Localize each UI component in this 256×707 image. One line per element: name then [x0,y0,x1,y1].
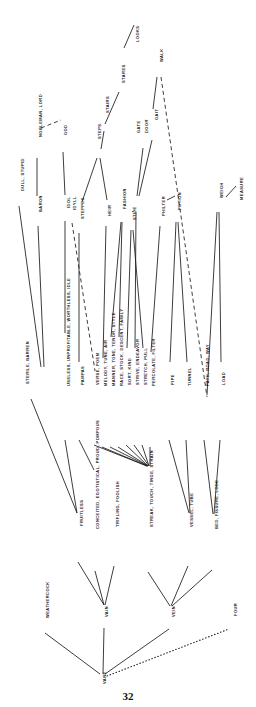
edge-vein-to-vane [105,629,169,674]
node-label-gait: GAIT [155,109,159,120]
node-label-melody: MELODY, TUNE, AIR [104,340,108,386]
node-label-stares: STARES [122,64,126,83]
edge-walk-to-path [161,77,207,397]
edge-fruitless-to-vain [78,562,104,605]
edge-potion-to-pipe [170,222,176,362]
node-label-god: GOD [64,125,68,135]
node-label-looks: LOOKS [136,26,140,42]
node-label-potion: POTION [178,192,182,210]
edge-philter-to-potion [167,196,175,200]
edge-conceited-to-vain [95,571,104,605]
edge-pampas-to-conceited [79,440,94,470]
node-label-sort: SORT, KIND [128,358,132,385]
node-label-steppes: STEPPES [81,197,85,219]
node-label-streak: STREAK, TOUCH, TINGE, STRAIN [150,450,154,527]
node-label-philter: PHILTER [162,196,166,216]
node-label-sterile: STERILE, BARREN [26,341,30,384]
node-label-vein: VEIN [172,606,176,617]
node-label-path: PATH, ROAD, WAY [206,344,210,386]
edge-dull-to-sterile [19,206,41,367]
node-label-measure: MEASURE [240,177,244,200]
edge-baron-to-sterile [38,226,44,367]
node-label-idol: IDOL [67,197,71,208]
edge-weathercock-to-vane [45,633,100,674]
node-label-strive: STRIVE, ENDEAVOR [136,339,140,385]
node-label-stairs: STAIRS [106,96,110,113]
edge-weigh-to-load [219,212,221,362]
node-label-trifling: TRIFLING, FOOLISH [116,481,120,527]
edge-sort-to-streak [126,445,148,466]
edge-stile-to-stretch [133,230,143,348]
node-label-steps: STEPS [98,124,102,139]
edge-weigh-to-measure [226,186,236,197]
node-label-manner: MANNER, TONE, TENOR, STYLE [112,312,116,386]
node-label-door: DOOR [145,119,149,133]
node-label-weathercock: WEATHERCOCK [46,581,50,618]
edge-walk-to-gait [153,77,157,109]
edge-vessel-to-vein [171,566,188,606]
edge-heir-to-melody [103,226,106,358]
edge-path-to-bed [204,440,213,514]
edge-door-to-gate [137,148,143,196]
diagram-canvas: DULL, STUPIDBARONNOBLEMAN, LORDGODIDOLID… [0,0,256,707]
node-label-idyll: IDYLL [73,196,77,210]
node-label-vane: VANE [103,671,107,684]
node-label-stretch: STRETCH, PULL [144,348,148,385]
node-label-fashion: FASHION [123,188,127,209]
edge-potion-to-tunnel [178,222,187,362]
edge-useless-to-fruitless [65,440,77,513]
edge-steps-to-steppes [82,158,97,202]
node-label-dull: DULL, STUPID [21,158,25,191]
node-label-heir: HEIR [108,205,112,216]
page-number: 32 [0,690,256,702]
edge-vane-to-four [107,629,229,676]
edge-looks-to-stares [124,25,134,48]
edge-stile-to-sort [127,230,131,348]
edge-vain-to-vane [103,628,104,674]
edge-pipe-to-vessel [169,440,189,513]
node-label-gate: GATE [137,120,141,133]
node-label-bed: BED, FISSURE, LODE [215,480,219,529]
node-label-nobleman: NOBLEMAN, LORD [39,94,43,137]
node-label-fruitless: FRUITLESS [80,500,84,526]
edge-nobleman-to-god [41,120,61,128]
edge-idyll-to-verse [72,223,95,371]
edge-trifling-to-vain [105,566,114,605]
edge-god-to-idol [63,152,65,195]
node-label-four: FOUR [234,603,238,616]
edge-melody-to-streak [102,447,147,466]
node-label-race: RACE, STOCK, DESCENT, FAMILY [120,309,124,387]
node-label-stile: STILE [133,206,137,220]
edge-streak-to-vein [148,572,170,606]
node-label-conceited: CONCEITED, EGOTISTICAL, PROUD, POMPOUS [96,420,100,529]
node-label-vessel: VESSEL, TUBE [190,493,194,527]
node-label-pipe: PIPE [171,374,175,385]
node-label-verse: VERSE, POEM [96,352,100,385]
node-label-percolate: PERCOLATE, FILTER [152,338,156,386]
node-label-vain: VAIN [105,606,109,617]
edge-gate-to-strive [135,212,136,348]
edge-steps-to-heir [100,158,107,200]
edge-sterile-to-fruitless [31,399,77,513]
node-label-weigh: WEIGH [220,182,224,198]
node-label-useless: USELESS, UNPROFITABLE, WORTHLESS, IDLE [67,278,71,386]
node-label-baron: BARON [39,195,43,212]
edge-philter-to-percolate [151,226,160,352]
edge-gait-to-gate [139,140,152,196]
node-label-walk: WALK [160,48,164,62]
node-label-load: LOAD [222,372,226,385]
edge-bed-to-vein [172,570,212,606]
node-label-tunnel: TUNNEL [188,367,192,386]
node-label-pampas: PAMPAS [81,366,85,385]
